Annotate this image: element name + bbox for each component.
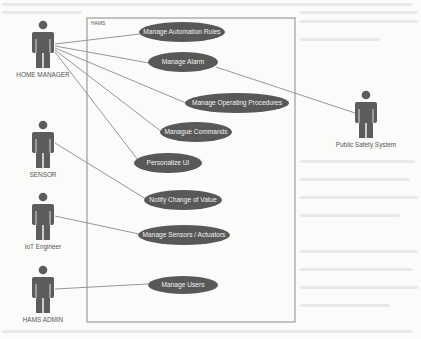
usecase-label: Personalize UI — [147, 159, 190, 166]
usecase-label: Manage Alarm — [162, 58, 205, 66]
usecase-label: Notify Change of Value — [149, 196, 217, 204]
usecase-manage-automation-rules[interactable]: Manage Automation Rules — [139, 22, 225, 42]
association-line — [55, 52, 138, 160]
actor-sensor[interactable]: SENSOR — [30, 121, 57, 178]
person-icon — [32, 193, 54, 240]
system-label: HAMS — [91, 20, 106, 26]
usecase-label: Manage Sensors / Actuators — [143, 231, 227, 239]
usecase-label: Manague Commands — [164, 128, 228, 136]
usecase-label: Manage Users — [162, 281, 206, 289]
use-case-diagram: HAMS Manage Automation RulesManage Alarm… — [0, 0, 421, 339]
actor-home-manager[interactable]: HOME MANAGER — [16, 21, 70, 78]
actor-label: Public Safety System — [336, 141, 396, 149]
person-icon — [355, 91, 377, 138]
actor-public-safety-system[interactable]: Public Safety System — [336, 91, 396, 149]
usecase-notify-change-of-value[interactable]: Notify Change of Value — [144, 190, 222, 210]
use-cases: Manage Automation RulesManage AlarmManag… — [134, 22, 289, 294]
association-line — [55, 143, 146, 199]
association-line — [55, 34, 140, 44]
usecase-manage-alarm[interactable]: Manage Alarm — [148, 52, 218, 72]
actor-label: IoT Engineer — [25, 243, 62, 251]
association-lines — [55, 34, 355, 289]
usecase-manague-commands[interactable]: Manague Commands — [160, 122, 232, 142]
usecase-label: Manage Automation Rules — [143, 28, 221, 36]
association-line — [55, 216, 139, 234]
actor-label: HOME MANAGER — [16, 71, 70, 78]
actor-label: HAMS ADMIN — [23, 316, 64, 323]
usecase-manage-operating-procedures[interactable]: Manage Operating Procedures — [185, 93, 289, 113]
person-icon — [32, 121, 54, 168]
usecase-personalize-ui[interactable]: Personalize UI — [134, 153, 202, 173]
actor-label: SENSOR — [30, 171, 57, 178]
actor-iot-engineer[interactable]: IoT Engineer — [25, 193, 62, 251]
person-icon — [32, 266, 54, 313]
usecase-label: Manage Operating Procedures — [192, 99, 283, 107]
actor-hams-admin[interactable]: HAMS ADMIN — [23, 266, 64, 323]
person-icon — [32, 21, 54, 68]
usecase-manage-sensors-actuators[interactable]: Manage Sensors / Actuators — [138, 225, 230, 245]
usecase-manage-users[interactable]: Manage Users — [148, 276, 218, 294]
association-line — [55, 284, 148, 289]
